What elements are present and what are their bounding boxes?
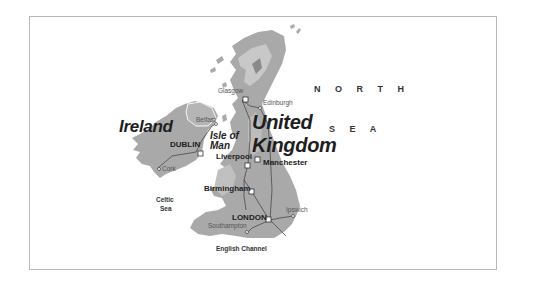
edinburgh-label: Edinburgh (263, 99, 293, 106)
edinburgh-marker (259, 107, 262, 110)
cork-marker (158, 168, 161, 171)
liverpool-marker (245, 163, 250, 168)
isle-of-man (222, 114, 227, 122)
dublin-label: DUBLIN (170, 140, 200, 149)
united-label: United (252, 111, 312, 134)
north-sea-label-2: S E A (329, 124, 382, 134)
glasgow-label: Glasgow (218, 87, 243, 94)
london-label: LONDON (232, 213, 267, 222)
ipswich-label: Ipswich (286, 206, 308, 213)
belfast-label: Belfast (196, 116, 216, 123)
southampton-marker (246, 231, 249, 234)
kingdom-label: Kingdom (252, 134, 337, 157)
glasgow-marker (243, 97, 248, 102)
southampton-label: Southampton (208, 222, 247, 229)
celtic-sea-label-1: Celtic (156, 195, 174, 204)
liverpool-label: Liverpool (216, 152, 252, 161)
birmingham-label: Birmingham (204, 184, 251, 193)
isle-of-man-label-2: Man (210, 141, 230, 151)
ipswich-marker (292, 215, 295, 218)
ireland-label: Ireland (119, 117, 173, 137)
english-channel-label: English Channel (216, 244, 267, 253)
manchester-marker (255, 157, 260, 162)
manchester-label: Manchester (263, 158, 307, 167)
dublin-marker (198, 151, 203, 156)
celtic-sea-label-2: Sea (160, 204, 172, 213)
cork-label: Cork (162, 165, 176, 172)
north-sea-label-1: N O R T H (314, 84, 410, 94)
